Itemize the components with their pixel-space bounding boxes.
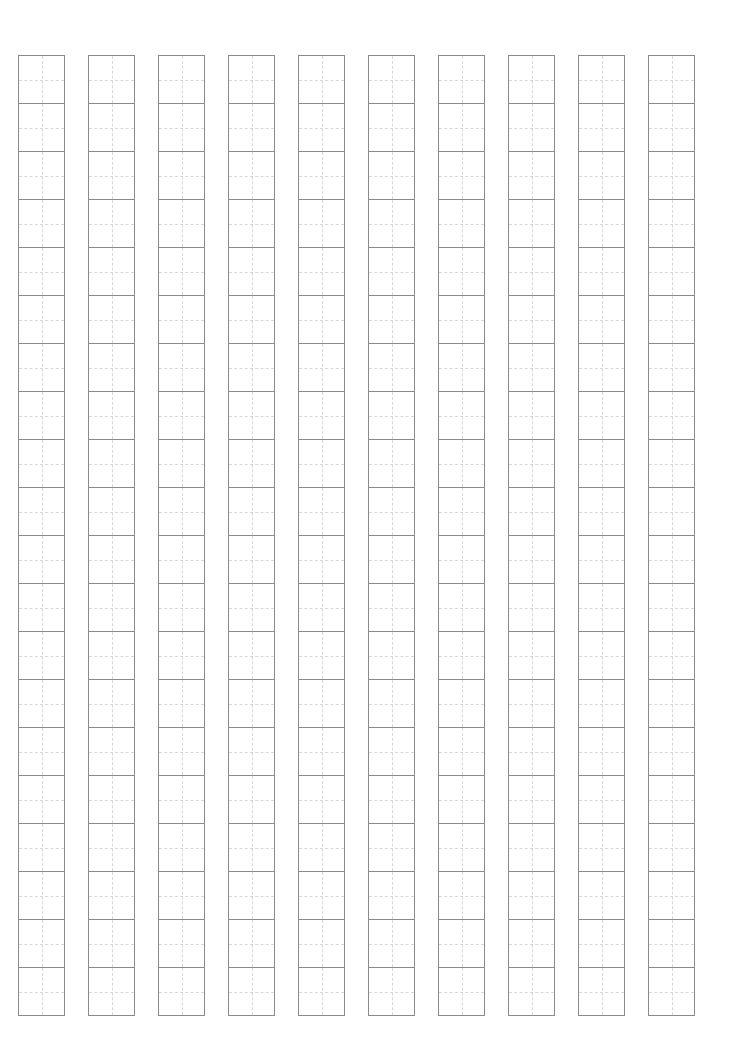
writing-cell [88,872,135,920]
writing-cell [158,776,205,824]
writing-cell [158,488,205,536]
writing-cell [578,920,625,968]
writing-cell [508,344,555,392]
writing-cell [578,296,625,344]
writing-cell [298,776,345,824]
writing-cell [368,632,415,680]
writing-cell [228,440,275,488]
writing-cell [438,104,485,152]
grid-column-3 [158,55,205,1016]
writing-cell [578,824,625,872]
writing-cell [368,152,415,200]
writing-cell [508,920,555,968]
writing-cell [88,392,135,440]
writing-cell [18,200,65,248]
writing-cell [88,728,135,776]
writing-cell [438,872,485,920]
grid-column-5 [298,55,345,1016]
writing-cell [578,584,625,632]
writing-cell [88,296,135,344]
writing-cell [298,55,345,104]
writing-cell [508,776,555,824]
writing-cell [88,104,135,152]
writing-cell [18,920,65,968]
writing-cell [368,440,415,488]
writing-cell [228,920,275,968]
writing-cell [158,200,205,248]
writing-cell [648,488,695,536]
writing-cell [158,536,205,584]
writing-cell [368,296,415,344]
writing-cell [298,248,345,296]
writing-cell [88,55,135,104]
writing-cell [368,248,415,296]
writing-cell [368,536,415,584]
writing-cell [88,200,135,248]
grid-column-7 [438,55,485,1016]
writing-cell [508,632,555,680]
writing-cell [508,872,555,920]
writing-cell [228,296,275,344]
writing-cell [648,344,695,392]
writing-cell [18,632,65,680]
writing-cell [578,536,625,584]
writing-cell [18,584,65,632]
writing-cell [368,200,415,248]
writing-cell [438,344,485,392]
writing-cell [438,968,485,1016]
writing-cell [18,536,65,584]
writing-cell [578,392,625,440]
writing-cell [438,632,485,680]
writing-cell [158,440,205,488]
writing-cell [368,824,415,872]
writing-cell [18,296,65,344]
writing-cell [648,104,695,152]
writing-cell [158,152,205,200]
writing-cell [298,200,345,248]
writing-cell [158,55,205,104]
writing-cell [508,824,555,872]
writing-cell [18,968,65,1016]
writing-cell [508,680,555,728]
writing-cell [158,728,205,776]
writing-cell [578,344,625,392]
writing-cell [158,344,205,392]
writing-cell [368,680,415,728]
grid-column-4 [228,55,275,1016]
writing-cell [158,104,205,152]
writing-cell [438,392,485,440]
writing-cell [228,680,275,728]
writing-cell [298,392,345,440]
writing-cell [648,200,695,248]
writing-cell [648,728,695,776]
writing-cell [298,488,345,536]
writing-cell [368,488,415,536]
writing-cell [228,824,275,872]
writing-cell [88,680,135,728]
grid-column-8 [508,55,555,1016]
writing-cell [88,488,135,536]
writing-cell [228,632,275,680]
writing-cell [228,536,275,584]
writing-cell [648,632,695,680]
writing-cell [578,872,625,920]
writing-cell [18,488,65,536]
writing-cell [648,296,695,344]
writing-cell [648,872,695,920]
grid-column-6 [368,55,415,1016]
writing-cell [158,968,205,1016]
writing-cell [368,104,415,152]
writing-cell [88,536,135,584]
writing-cell [508,200,555,248]
writing-cell [88,344,135,392]
writing-cell [298,152,345,200]
writing-cell [578,968,625,1016]
writing-cell [228,248,275,296]
writing-cell [18,344,65,392]
writing-cell [18,728,65,776]
writing-cell [648,824,695,872]
writing-cell [88,440,135,488]
writing-cell [578,488,625,536]
writing-cell [578,680,625,728]
writing-cell [578,152,625,200]
